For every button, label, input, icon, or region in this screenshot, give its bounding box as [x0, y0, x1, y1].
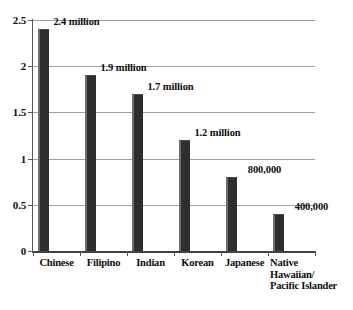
- y-axis-tick-label: 1.5: [13, 107, 26, 118]
- bar-value-label: 800,000: [248, 165, 281, 178]
- gridline: [33, 205, 315, 206]
- bar: [38, 29, 49, 251]
- x-axis-category-label: Chinese: [39, 257, 73, 269]
- y-tick-mark: [28, 112, 33, 113]
- y-axis-tick-label: 2: [21, 61, 26, 72]
- x-tick-mark: [174, 251, 175, 256]
- bar-chart: 2.4 million1.9 million1.7 million1.2 mil…: [0, 0, 353, 310]
- y-tick-mark: [28, 20, 33, 21]
- gridline: [33, 159, 315, 160]
- x-tick-mark: [315, 251, 316, 256]
- x-axis-category-label: Filipino: [87, 257, 120, 269]
- bar-value-label: 1.7 million: [147, 81, 193, 94]
- y-axis-tick-label: 1: [21, 153, 26, 164]
- x-tick-mark: [268, 251, 269, 256]
- x-axis-category-label: Japanese: [225, 257, 264, 269]
- bar-value-label: 400,000: [295, 202, 328, 215]
- bar: [179, 140, 190, 251]
- x-tick-mark: [33, 251, 34, 256]
- y-tick-mark: [28, 66, 33, 67]
- x-tick-mark: [127, 251, 128, 256]
- x-axis-category-label: Native Hawaiian/ Pacific Islander: [270, 257, 337, 292]
- x-axis-category-label: Korean: [181, 257, 213, 269]
- x-tick-mark: [80, 251, 81, 256]
- x-axis-category-label: Indian: [136, 257, 165, 269]
- y-tick-mark: [28, 159, 33, 160]
- y-axis-tick-label: 0: [21, 246, 26, 257]
- bar-value-label: 1.9 million: [100, 63, 146, 76]
- plot-area: 2.4 million1.9 million1.7 million1.2 mil…: [33, 20, 315, 251]
- y-tick-mark: [28, 205, 33, 206]
- gridline: [33, 112, 315, 113]
- bar: [85, 75, 96, 251]
- bar: [132, 94, 143, 251]
- gridline: [33, 66, 315, 67]
- y-axis-tick-label: 0.5: [13, 199, 26, 210]
- bar: [226, 177, 237, 251]
- bar-value-label: 2.4 million: [53, 17, 99, 30]
- y-axis-tick-label: 2.5: [13, 15, 26, 26]
- x-tick-mark: [221, 251, 222, 256]
- bar: [273, 214, 284, 251]
- bar-value-label: 1.2 million: [194, 128, 240, 141]
